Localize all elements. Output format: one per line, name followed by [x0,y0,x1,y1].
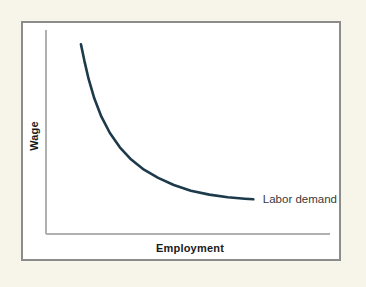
labor-demand-series-label: Labor demand [263,193,337,205]
y-axis-label: Wage [28,121,40,151]
chart-panel [21,21,341,261]
x-axis-label: Employment [156,242,224,254]
figure-root: Wage Employment Labor demand [0,0,366,287]
